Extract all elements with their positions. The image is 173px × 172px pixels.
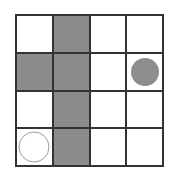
cell-r0-c1-shaded	[53, 15, 90, 53]
cell-r3-c2	[90, 128, 127, 166]
cell-r2-c3	[126, 91, 163, 129]
hollow-circle-icon	[19, 132, 50, 163]
grid-board	[15, 14, 164, 167]
cell-r3-c3	[126, 128, 163, 166]
cell-r0-c3	[126, 15, 163, 53]
filled-circle-icon	[131, 58, 159, 86]
cell-r3-c0	[16, 128, 53, 166]
cell-r1-c1-shaded	[53, 53, 90, 91]
cell-r2-c2	[90, 91, 127, 129]
cell-r0-c0	[16, 15, 53, 53]
cell-r2-c0	[16, 91, 53, 129]
cell-r3-c1-shaded	[53, 128, 90, 166]
cell-r1-c2	[90, 53, 127, 91]
cell-r2-c1-shaded	[53, 91, 90, 129]
cell-r1-c0-shaded	[16, 53, 53, 91]
cell-r1-c3	[126, 53, 163, 91]
cell-r0-c2	[90, 15, 127, 53]
